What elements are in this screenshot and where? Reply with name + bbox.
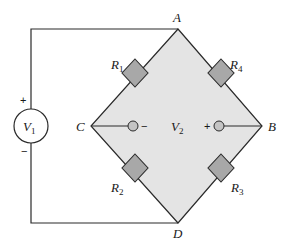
positive-probe — [214, 121, 224, 131]
v2-minus-sign: − — [141, 120, 147, 132]
r3-label: R3 — [230, 180, 244, 197]
wheatstone-bridge-diagram: V1 + − R1 R4 R2 R3 − V2 + A B C D — [0, 0, 291, 247]
v1-plus-sign: + — [20, 94, 26, 106]
v1-minus-sign: − — [21, 145, 27, 157]
negative-probe — [128, 121, 138, 131]
node-c-label: C — [76, 119, 85, 134]
r1-label: R1 — [110, 57, 123, 74]
node-a-label: A — [172, 10, 181, 25]
node-d-label: D — [172, 226, 183, 241]
v2-plus-sign: + — [204, 120, 210, 132]
r4-label: R4 — [229, 57, 243, 74]
node-b-label: B — [268, 119, 276, 134]
r2-label: R2 — [110, 180, 123, 197]
